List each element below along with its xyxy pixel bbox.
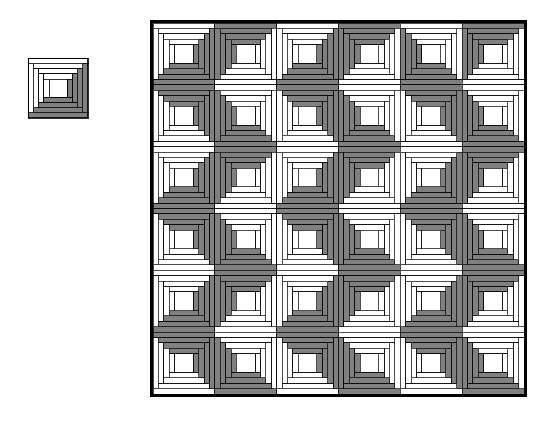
quilt-block-r5-c5 bbox=[400, 270, 462, 332]
quilt-block-r6-c2 bbox=[215, 332, 277, 394]
quilt-svg bbox=[150, 20, 527, 397]
quilt-block-r4-c2 bbox=[215, 209, 277, 271]
quilt-block-r1-c3 bbox=[277, 23, 339, 85]
diagram-canvas bbox=[0, 0, 542, 422]
log-cabin-block bbox=[28, 58, 88, 118]
quilt-block-r4-c6 bbox=[462, 209, 524, 271]
quilt-block-r6-c4 bbox=[339, 332, 401, 394]
quilt-block-r4-c3 bbox=[277, 209, 339, 271]
quilt-block-r1-c2 bbox=[215, 23, 277, 85]
quilt-block-r4-c5 bbox=[400, 209, 462, 271]
quilt-block-r3-c5 bbox=[400, 147, 462, 209]
quilt-block-r2-c2 bbox=[215, 85, 277, 147]
quilt-block-r1-c4 bbox=[339, 23, 401, 85]
quilt-block-r3-c6 bbox=[462, 147, 524, 209]
quilt-block-r3-c3 bbox=[277, 147, 339, 209]
quilt-block-r1-c1 bbox=[153, 23, 215, 85]
quilt-block-r5-c6 bbox=[462, 270, 524, 332]
quilt-block-r1-c6 bbox=[462, 23, 524, 85]
quilt-block-r4-c4 bbox=[339, 209, 401, 271]
quilt-block-r2-c5 bbox=[400, 85, 462, 147]
quilt-block-r1-c5 bbox=[400, 23, 462, 85]
quilt-block-r3-c1 bbox=[153, 147, 215, 209]
unit-block-figure bbox=[28, 58, 88, 118]
quilt-block-r6-c6 bbox=[462, 332, 524, 394]
quilt-block-r5-c4 bbox=[339, 270, 401, 332]
quilt-block-r5-c1 bbox=[153, 270, 215, 332]
quilt-block-r2-c3 bbox=[277, 85, 339, 147]
quilt-figure bbox=[150, 20, 527, 397]
quilt-block-r6-c5 bbox=[400, 332, 462, 394]
quilt-block-r6-c1 bbox=[153, 332, 215, 394]
quilt-block-r3-c4 bbox=[339, 147, 401, 209]
quilt-block-r6-c3 bbox=[277, 332, 339, 394]
quilt-block-r2-c1 bbox=[153, 85, 215, 147]
quilt-block-r3-c2 bbox=[215, 147, 277, 209]
quilt-block-r5-c3 bbox=[277, 270, 339, 332]
quilt-block-r4-c1 bbox=[153, 209, 215, 271]
quilt-block-r5-c2 bbox=[215, 270, 277, 332]
unit-block-svg bbox=[28, 58, 88, 118]
quilt-block-r2-c4 bbox=[339, 85, 401, 147]
quilt-block-r2-c6 bbox=[462, 85, 524, 147]
